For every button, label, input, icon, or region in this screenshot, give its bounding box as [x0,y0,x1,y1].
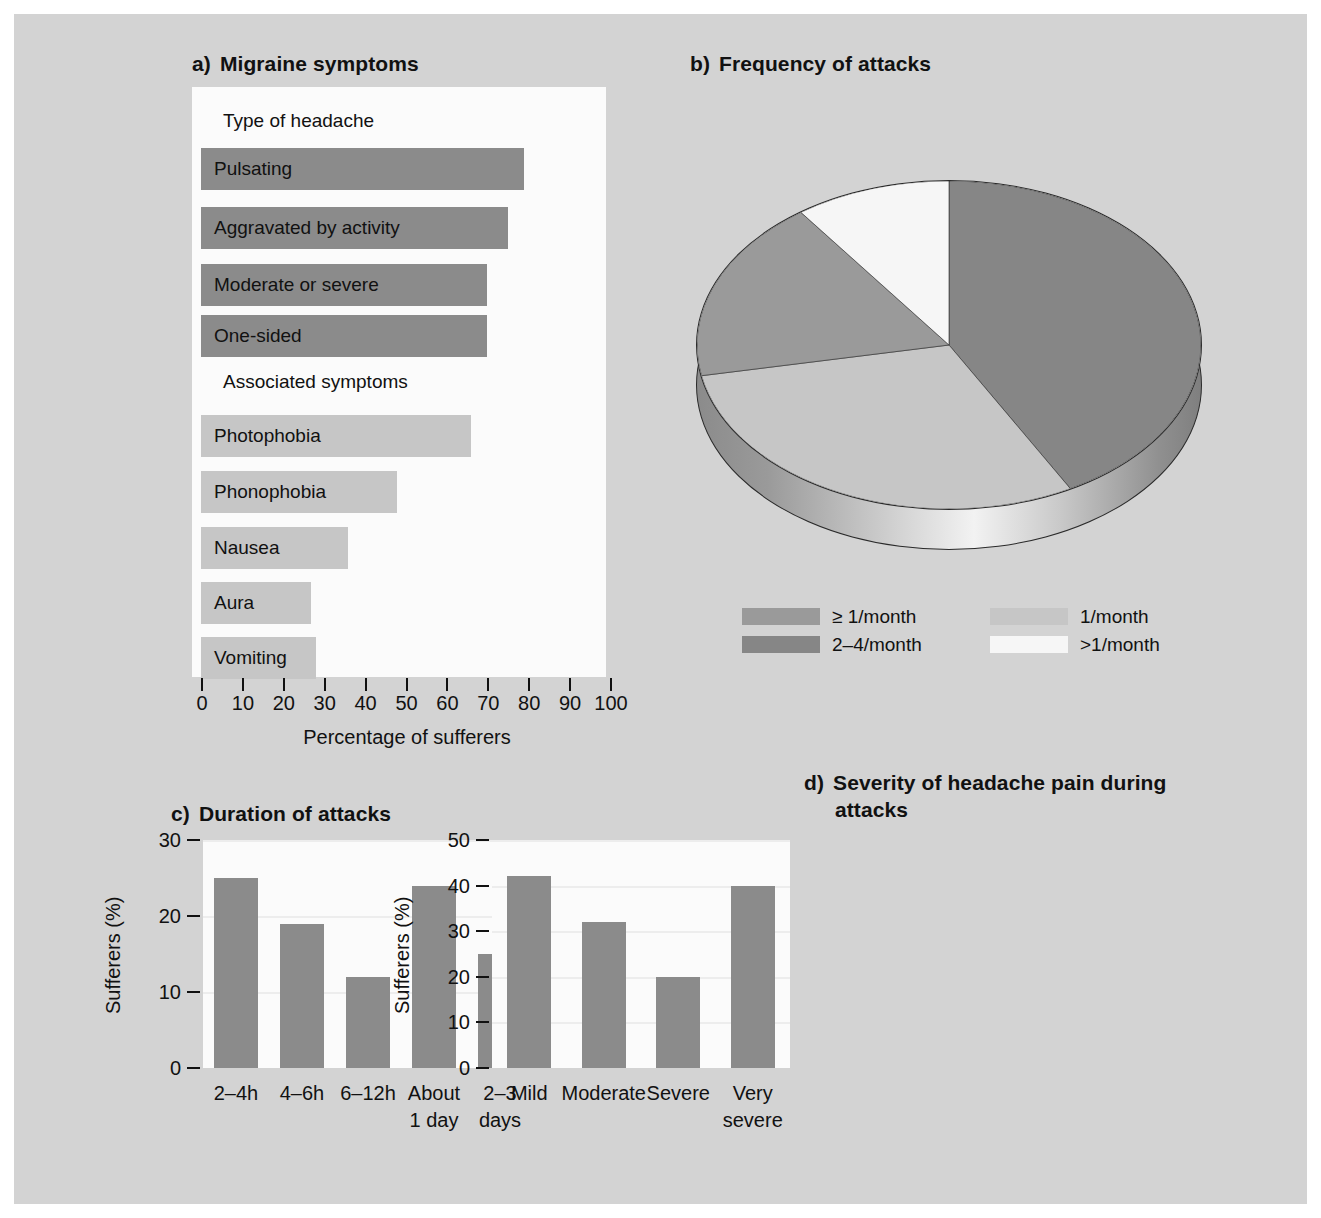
panel-a-x-tick [283,678,285,691]
panel-a-x-tick-label: 90 [559,692,581,715]
panel-d-gridline [492,840,790,842]
panel-d-y-tick-label: 40 [402,874,470,897]
panel-a-x-tick [406,678,408,691]
panel-d-y-tick [476,1067,489,1069]
panel-d-bar [656,977,700,1068]
panel-c-y-tick-label: 0 [113,1057,181,1080]
panel-c-title: c)Duration of attacks [171,800,391,827]
panel-a-bar: Pulsating [201,148,524,190]
panel-a-bar: Nausea [201,527,348,569]
pie-top-face [696,180,1202,510]
panel-d-bar [731,886,775,1068]
panel-b-legend: ≥ 1/month2–4/month1/month>1/month [742,606,1182,662]
panel-a-tag: a) [192,52,211,75]
panel-a-bar: Aggravated by activity [201,207,508,249]
panel-a-x-tick [242,678,244,691]
figure-canvas: a)Migraine symptoms Type of headachePuls… [14,14,1307,1204]
panel-a-bar: Aura [201,582,311,624]
panel-a-group-heading: Associated symptoms [223,371,408,393]
panel-c-bar [346,977,390,1068]
panel-d-y-tick [476,930,489,932]
pie-legend-swatch [990,608,1068,625]
panel-d-title: d)Severity of headache pain during attac… [804,769,1224,823]
panel-d-x-category-label: Verysevere [710,1080,797,1134]
panel-a-x-tick [569,678,571,691]
panel-a-x-tick [324,678,326,691]
panel-a-x-tick-label: 20 [273,692,295,715]
panel-c-title-text: Duration of attacks [199,802,391,825]
panel-a-x-tick-label: 10 [232,692,254,715]
panel-a-title: a)Migraine symptoms [192,50,419,77]
panel-c-y-tick [187,915,200,917]
panel-d-bar [582,922,626,1068]
panel-d-y-tick-label: 50 [402,829,470,852]
panel-a-x-tick-label: 40 [354,692,376,715]
panel-b-pie-chart [690,146,1210,566]
panel-a-x-tick-label: 80 [518,692,540,715]
panel-a-bar-label: Pulsating [214,158,292,180]
panel-d-y-tick-label: 10 [402,1011,470,1034]
panel-c-bar [214,878,258,1068]
panel-a-x-tick-label: 70 [477,692,499,715]
panel-a-x-tick-label: 30 [314,692,336,715]
panel-a-x-tick-label: 50 [395,692,417,715]
panel-b-title: b)Frequency of attacks [690,50,931,77]
panel-a-bar: Phonophobia [201,471,397,513]
pie-legend-label: 2–4/month [832,634,922,656]
panel-a-x-tick-label: 100 [594,692,627,715]
panel-a-bar: One-sided [201,315,487,357]
panel-c-y-tick [187,839,200,841]
panel-b-tag: b) [690,52,710,75]
panel-a-group-heading: Type of headache [223,110,374,132]
panel-a-x-tick [610,678,612,691]
panel-d-title-line2: attacks [835,798,908,821]
panel-c-y-tick [187,1067,200,1069]
panel-a-x-axis-label: Percentage of sufferers [192,726,622,749]
panel-a-bar-label: Moderate or severe [214,274,379,296]
panel-d-y-axis-label: Sufferers (%) [391,897,414,1014]
panel-c-y-tick [187,991,200,993]
panel-a-bar-label: Photophobia [214,425,321,447]
panel-a-bar-label: Nausea [214,537,280,559]
panel-a-title-text: Migraine symptoms [220,52,419,75]
pie-legend-swatch [990,636,1068,653]
panel-b-title-text: Frequency of attacks [719,52,931,75]
panel-a-x-tick [446,678,448,691]
panel-d-y-tick [476,885,489,887]
panel-d-y-tick [476,976,489,978]
panel-a-bar-label: One-sided [214,325,302,347]
panel-a-x-tick [487,678,489,691]
panel-a-x-tick [201,678,203,691]
panel-a-bar: Vomiting [201,637,316,679]
pie-legend-swatch [742,636,820,653]
panel-a-bar-label: Aura [214,592,254,614]
panel-d-y-tick [476,1021,489,1023]
panel-a-bar-label: Vomiting [214,647,287,669]
panel-a-x-tick [528,678,530,691]
panel-a-x-tick-label: 60 [436,692,458,715]
panel-a-bar: Moderate or severe [201,264,487,306]
pie-legend-label: 1/month [1080,606,1149,628]
pie-slices-svg [697,181,1201,509]
panel-a-x-tick [365,678,367,691]
panel-c-tag: c) [171,802,190,825]
panel-d-bar [507,876,551,1068]
panel-d-tag: d) [804,771,824,794]
panel-d-y-tick-label: 0 [402,1057,470,1080]
pie-legend-label: >1/month [1080,634,1160,656]
panel-d-title-line1: Severity of headache pain during [833,771,1166,794]
panel-c-bar [280,924,324,1068]
panel-a-bar: Photophobia [201,415,471,457]
pie-legend-label: ≥ 1/month [832,606,916,628]
panel-d-y-tick [476,839,489,841]
panel-a-bar-label: Phonophobia [214,481,326,503]
pie-legend-swatch [742,608,820,625]
panel-a-x-tick-label: 0 [196,692,207,715]
panel-a-bar-label: Aggravated by activity [214,217,400,239]
panel-c-y-axis-label: Sufferers (%) [102,897,125,1014]
panel-c-y-tick-label: 30 [113,829,181,852]
